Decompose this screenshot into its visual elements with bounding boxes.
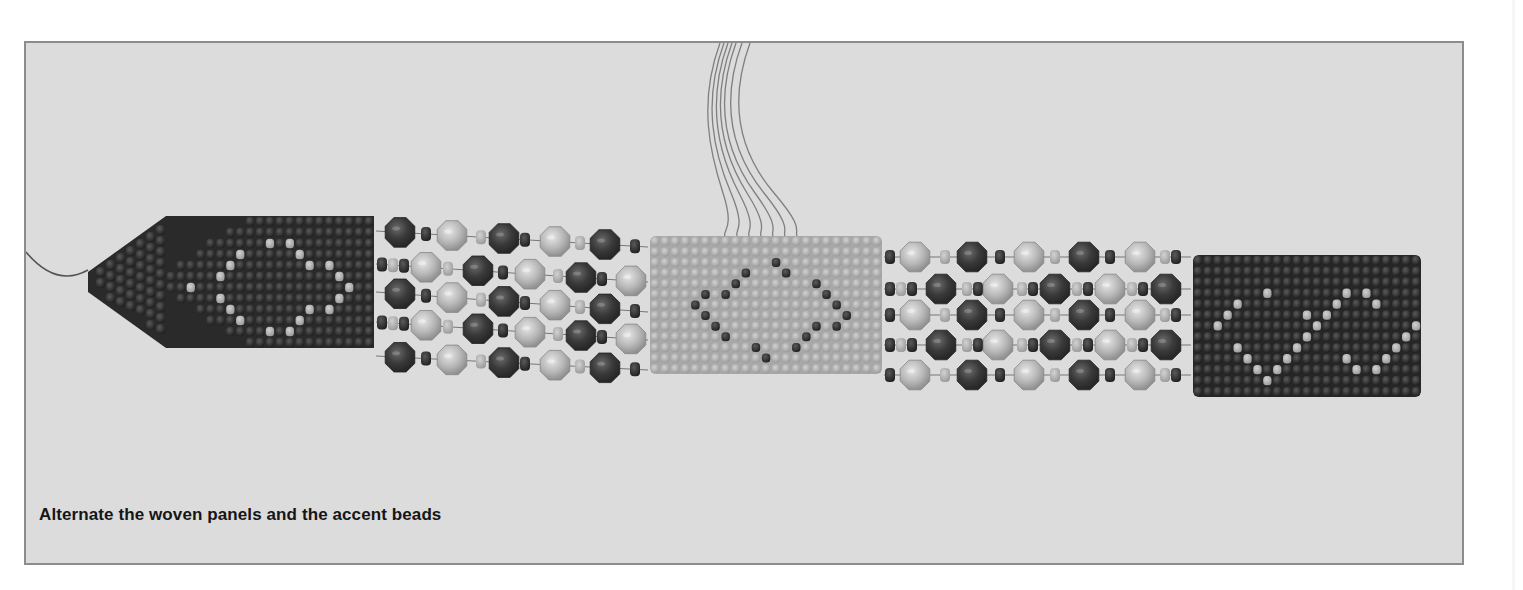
figure-caption: Alternate the woven panels and the accen…: [39, 505, 441, 525]
center-woven-panel: [650, 236, 882, 374]
right-accent-strand: [884, 242, 1191, 390]
photo-figure: Alternate the woven panels and the accen…: [24, 41, 1464, 565]
beaded-bracelet-photo: [26, 43, 1462, 563]
right-woven-panel: [1193, 255, 1421, 397]
page-gutter: [1512, 0, 1515, 590]
woven-panels: [88, 216, 1421, 397]
left-accent-strand: [376, 218, 648, 383]
left-woven-panel: [88, 216, 374, 348]
